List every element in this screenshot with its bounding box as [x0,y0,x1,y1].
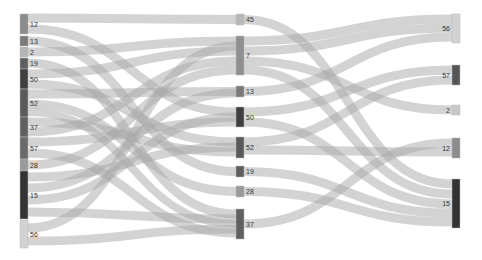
node-bar [20,69,28,89]
node-bar [452,14,460,43]
node-label: 45 [246,16,254,23]
node-label: 56 [442,25,450,32]
node-bar [236,166,244,177]
node-bar [236,209,244,239]
node-label: 19 [246,168,254,175]
node-label: 28 [246,188,254,195]
node-label: 56 [30,231,38,238]
node-bar [236,107,244,127]
node-label: 15 [30,192,38,199]
node-label: 13 [30,38,38,45]
node-bar [20,220,28,248]
node-bar [236,14,244,25]
node-label: 12 [30,21,38,28]
node-label: 7 [246,52,250,59]
sankey-diagram: 1213219505237572815564571350521928375657… [0,0,482,260]
node-label: 52 [246,144,254,151]
node-label: 37 [30,124,38,131]
node-label: 50 [246,114,254,121]
node-label: 15 [442,200,450,207]
node-bar [452,179,460,228]
node-label: 37 [246,221,254,228]
node-label: 28 [30,162,38,169]
node-label: 13 [246,88,254,95]
node-bar [236,36,244,75]
node-label: 50 [30,76,38,83]
node-label: 19 [30,60,38,67]
node-bar [20,58,28,69]
node-bar [20,137,28,159]
node-label: 57 [442,72,450,79]
node-label: 57 [30,145,38,152]
node-bar [452,138,460,158]
node-label: 12 [442,145,450,152]
node-bar [236,186,244,197]
flow-link [28,229,236,241]
node-bar [20,117,28,137]
node-bar [20,47,28,57]
node-bar [20,36,28,46]
node-bar [20,14,28,34]
node-label: 2 [446,107,450,114]
flow-link [28,18,236,20]
node-bar [236,137,244,158]
node-bar [236,86,244,97]
node-label: 2 [30,49,34,56]
node-bar [20,171,28,219]
node-bar [20,89,28,117]
node-label: 52 [30,100,38,107]
node-bar [20,159,28,171]
node-bar [452,105,460,115]
node-bar [452,65,460,85]
